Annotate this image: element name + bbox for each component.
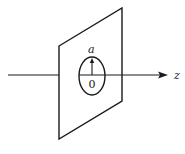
z-axis-label: z [173,69,180,82]
origin-label: 0 [89,78,96,91]
radius-label: a [88,43,95,56]
aperture-diagram: a 0 z [0,0,185,154]
